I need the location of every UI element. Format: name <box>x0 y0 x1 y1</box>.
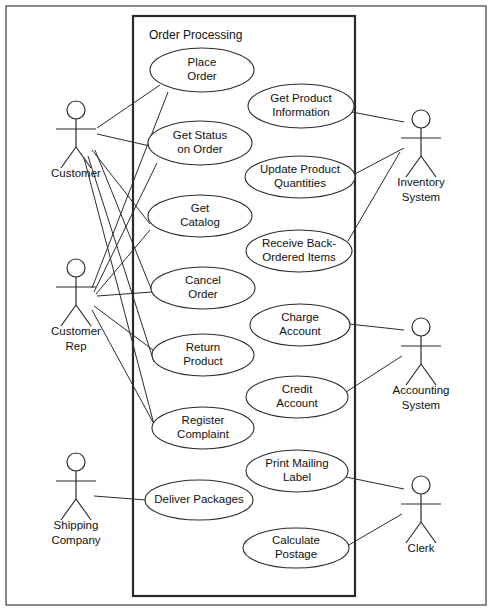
use-case-label: Complaint <box>177 428 230 440</box>
association-customer-to-cancel-order <box>95 150 154 296</box>
use-case-charge-account[interactable]: ChargeAccount <box>250 304 350 346</box>
association-customer-rep-to-get-catalog <box>96 230 150 294</box>
association-customer-to-register-complaint <box>84 158 156 432</box>
actor-label: Customer <box>51 325 101 337</box>
use-case-label: Register <box>182 414 225 426</box>
association-inventory-system-to-get-product-info <box>352 112 404 122</box>
diagram-frame <box>6 6 486 605</box>
actor-label: Clerk <box>408 542 435 554</box>
actor-label: Accounting <box>393 384 450 396</box>
actor-accounting-system[interactable]: AccountingSystem <box>393 318 450 411</box>
use-case-layer: PlaceOrderGet ProductInformationGet Stat… <box>145 48 355 568</box>
use-case-label: Place <box>188 56 217 68</box>
use-case-label: Credit <box>282 383 313 395</box>
actor-label: System <box>402 191 440 203</box>
actor-label: Rep <box>65 340 86 352</box>
use-case-label: Catalog <box>180 216 220 228</box>
use-case-label: Quantities <box>274 177 326 189</box>
use-case-deliver-packages[interactable]: Deliver Packages <box>145 480 253 520</box>
association-customer-to-get-status-on-order <box>97 134 150 146</box>
use-case-label: Get <box>191 202 210 214</box>
actor-label: Shipping <box>54 519 99 531</box>
use-case-label: Information <box>272 106 330 118</box>
use-case-cancel-order[interactable]: CancelOrder <box>151 267 255 309</box>
uml-canvas: Order Processing PlaceOrderGet ProductIn… <box>0 0 492 611</box>
actor-customer[interactable]: Customer <box>51 101 101 179</box>
use-case-return-product[interactable]: ReturnProduct <box>152 334 254 376</box>
actor-label: Inventory <box>397 176 445 188</box>
actor-clerk[interactable]: Clerk <box>401 476 441 554</box>
use-case-label: Calculate <box>272 534 320 546</box>
use-case-label: Charge <box>281 311 319 323</box>
use-case-label: Account <box>276 397 318 409</box>
actor-label: Company <box>51 534 100 546</box>
use-case-label: Order <box>188 288 218 300</box>
use-case-register-complaint[interactable]: RegisterComplaint <box>152 407 254 449</box>
use-case-get-status-on-order[interactable]: Get Statuson Order <box>148 121 252 165</box>
use-case-label: Cancel <box>185 274 221 286</box>
association-customer-rep-to-return-product <box>94 306 153 350</box>
use-case-place-order[interactable]: PlaceOrder <box>150 48 254 92</box>
use-case-diagram: Order Processing PlaceOrderGet ProductIn… <box>0 0 492 611</box>
use-case-label: Return <box>186 341 221 353</box>
use-case-label: Account <box>279 325 321 337</box>
use-case-print-mailing-label[interactable]: Print MailingLabel <box>246 450 348 492</box>
use-case-label: Deliver Packages <box>154 493 244 505</box>
use-case-get-product-info[interactable]: Get ProductInformation <box>248 84 354 128</box>
association-customer-rep-to-place-order <box>92 92 168 288</box>
association-customer-rep-to-cancel-order <box>97 292 152 296</box>
use-case-label: Print Mailing <box>265 457 328 469</box>
actor-inventory-system[interactable]: InventorySystem <box>397 110 445 203</box>
use-case-receive-back-ordered[interactable]: Receive Back-Ordered Items <box>246 230 352 272</box>
use-case-label: Product <box>183 355 223 367</box>
system-boundary-title: Order Processing <box>149 28 242 42</box>
actor-label: Customer <box>51 167 101 179</box>
use-case-label: Receive Back- <box>262 237 336 249</box>
actor-label: System <box>402 399 440 411</box>
use-case-label: Postage <box>275 548 317 560</box>
association-accounting-system-to-charge-account <box>349 324 404 330</box>
use-case-calculate-postage[interactable]: CalculatePostage <box>243 528 349 568</box>
actor-shipping-company[interactable]: ShippingCompany <box>51 453 100 546</box>
use-case-label: Get Status <box>173 129 228 141</box>
use-case-label: Get Product <box>270 92 332 104</box>
association-customer-to-place-order <box>97 85 160 128</box>
use-case-label: Order <box>187 70 217 82</box>
use-case-get-catalog[interactable]: GetCatalog <box>148 195 252 237</box>
association-inventory-system-to-update-product-qty <box>353 148 404 175</box>
use-case-update-product-qty[interactable]: Update ProductQuantities <box>245 156 355 198</box>
use-case-credit-account[interactable]: CreditAccount <box>246 376 348 418</box>
use-case-label: Update Product <box>260 163 341 175</box>
use-case-label: on Order <box>177 143 223 155</box>
use-case-label: Ordered Items <box>262 251 336 263</box>
use-case-label: Label <box>283 471 311 483</box>
association-shipping-company-to-deliver-packages <box>94 496 146 500</box>
actor-customer-rep[interactable]: CustomerRep <box>51 259 101 352</box>
